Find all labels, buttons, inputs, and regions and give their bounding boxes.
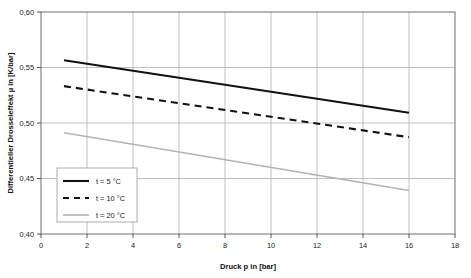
x-tick-label: 16 <box>405 241 413 250</box>
x-tick-label: 2 <box>85 241 89 250</box>
y-tick-label: 0,55 <box>20 63 34 72</box>
y-axis-title: Differentieller Drosseleffekt µ in [K/ba… <box>6 52 15 194</box>
chart-container: 0,400,450,500,550,60 024681012141618 Dru… <box>0 0 471 278</box>
y-tick-label: 0,60 <box>20 8 34 17</box>
legend[interactable]: t = 5 °Ct = 10 °Ct = 20 °C <box>57 168 137 222</box>
y-tick-label: 0,45 <box>20 174 34 183</box>
legend-label-2: t = 10 °C <box>96 194 126 203</box>
x-tick-label: 10 <box>267 241 275 250</box>
y-tick-label: 0,40 <box>20 230 34 239</box>
x-tick-label: 14 <box>359 241 367 250</box>
y-tick-label: 0,50 <box>20 119 34 128</box>
x-axis-title: Druck p in [bar] <box>220 262 277 271</box>
x-tick-label: 4 <box>131 241 135 250</box>
x-tick-label: 8 <box>223 241 227 250</box>
legend-label-1: t = 5 °C <box>96 177 122 186</box>
legend-label-3: t = 20 °C <box>96 211 126 220</box>
x-tick-label: 6 <box>177 241 181 250</box>
x-tick-label: 0 <box>39 241 43 250</box>
x-tick-label: 18 <box>451 241 459 250</box>
line-chart: 0,400,450,500,550,60 024681012141618 Dru… <box>0 0 471 278</box>
x-tick-label: 12 <box>313 241 321 250</box>
